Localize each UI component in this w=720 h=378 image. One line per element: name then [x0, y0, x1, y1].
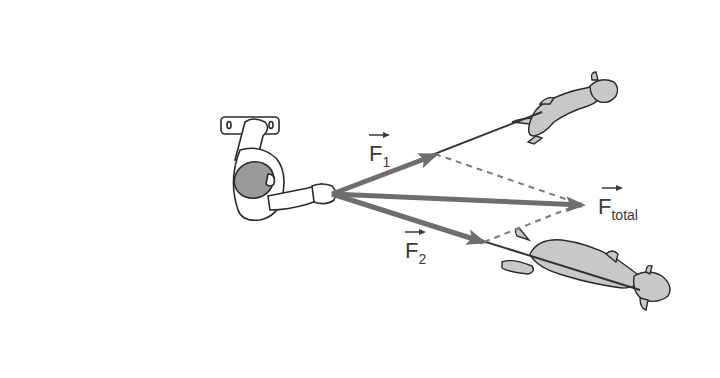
- vector-arrow-icon: [405, 228, 427, 236]
- dog-lower-ear-2: [640, 298, 648, 310]
- dog-upper-head: [590, 80, 618, 103]
- label-ftotal: Ftotal: [598, 196, 638, 218]
- foot-hole-left: [227, 122, 231, 129]
- person: [221, 117, 336, 220]
- label-ftotal-main: F: [598, 194, 611, 219]
- dog-lower-body: [530, 240, 642, 288]
- vector-arrow-icon: [369, 131, 391, 139]
- label-f1-main: F: [369, 141, 382, 166]
- dog-upper-leg-front: [528, 136, 542, 144]
- dog-upper-ear: [592, 72, 599, 80]
- dog-lower: [502, 228, 670, 310]
- label-f2-main: F: [405, 238, 418, 263]
- foot-hole-right: [269, 122, 273, 129]
- label-f2: F2: [405, 240, 426, 262]
- label-f1: F1: [369, 143, 390, 165]
- vector-arrow-icon: [602, 184, 624, 192]
- label-ftotal-sub: total: [611, 207, 637, 223]
- dog-lower-leg-hind: [502, 261, 533, 274]
- label-f1-sub: 1: [382, 154, 390, 170]
- dashed-line-upper: [435, 154, 580, 204]
- dog-upper: [512, 72, 618, 144]
- label-f2-sub: 2: [418, 251, 426, 267]
- dog-lower-head: [634, 272, 670, 301]
- dashed-line-lower: [484, 204, 580, 242]
- ear: [266, 174, 274, 186]
